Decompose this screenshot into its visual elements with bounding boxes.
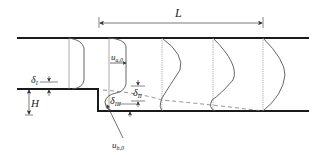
delta-2-annotation: δII (131, 80, 145, 107)
velocity-profile-4 (211, 38, 235, 111)
delta-3-annotation: δIII (110, 95, 136, 117)
bottom-wall-with-step (17, 89, 309, 111)
svg-text:ub,0: ub,0 (112, 140, 124, 151)
u-a0-annotation: ua,0 (110, 52, 126, 63)
length-label: L (174, 6, 182, 20)
svg-text:δII: δII (133, 87, 143, 99)
delta-2-sub: II (137, 93, 143, 99)
svg-text:ua,0: ua,0 (111, 52, 123, 63)
svg-text:δI: δI (31, 74, 39, 86)
velocity-profile-1 (69, 38, 84, 89)
step-flow-diagram: L H δI ua,0 δII δIII (0, 0, 323, 155)
dividing-streamline (103, 90, 263, 111)
velocity-profile-3 (160, 38, 181, 111)
velocity-profile-5 (263, 38, 285, 111)
velocity-profile-2 (105, 38, 126, 110)
u-b0-sub: b,0 (117, 145, 125, 151)
step-height-dimension: H (25, 90, 40, 115)
delta-1-sub: I (35, 80, 39, 86)
step-height-label: H (30, 97, 40, 109)
velocity-profiles (69, 38, 285, 111)
svg-text:δIII: δIII (110, 95, 122, 107)
length-dimension: L (99, 6, 263, 28)
u-a0-sub: a,0 (116, 57, 124, 63)
delta-3-sub: III (114, 101, 122, 107)
channel-walls (17, 38, 309, 111)
delta-1-annotation: δI (31, 74, 58, 96)
